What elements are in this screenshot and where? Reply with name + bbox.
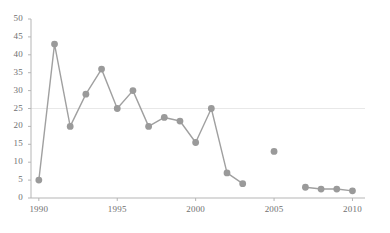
data-point-marker bbox=[98, 66, 105, 73]
data-point-marker bbox=[114, 105, 121, 112]
y-tick-label: 50 bbox=[1, 14, 23, 23]
line-chart: 05101520253035404550 1990199520002005201… bbox=[0, 0, 390, 233]
series-lines bbox=[39, 44, 353, 191]
y-tick-label: 45 bbox=[1, 32, 23, 41]
y-tick-label: 10 bbox=[1, 157, 23, 166]
x-tick-label: 2005 bbox=[254, 205, 294, 214]
data-point-marker bbox=[192, 139, 199, 146]
data-point-marker bbox=[302, 184, 309, 191]
data-point-marker bbox=[224, 170, 231, 177]
y-tick-label: 40 bbox=[1, 50, 23, 59]
x-tick-label: 2000 bbox=[176, 205, 216, 214]
data-point-marker bbox=[333, 186, 340, 193]
series-line-segment-2 bbox=[305, 187, 352, 191]
x-tick-label: 2010 bbox=[332, 205, 372, 214]
series-line-segment-1 bbox=[39, 44, 243, 184]
data-point-marker bbox=[161, 114, 168, 121]
y-tick-label: 5 bbox=[1, 175, 23, 184]
data-point-marker bbox=[35, 177, 42, 184]
data-point-marker bbox=[82, 91, 89, 98]
y-tick-label: 15 bbox=[1, 139, 23, 148]
data-point-marker bbox=[239, 180, 246, 187]
data-point-marker bbox=[318, 186, 325, 193]
data-point-marker bbox=[145, 123, 152, 130]
y-tick-label: 25 bbox=[1, 104, 23, 113]
y-tick-label: 35 bbox=[1, 68, 23, 77]
data-point-marker bbox=[51, 41, 58, 48]
y-tick-label: 0 bbox=[1, 193, 23, 202]
x-tick-label: 1995 bbox=[97, 205, 137, 214]
data-point-marker bbox=[208, 105, 215, 112]
x-tick-label: 1990 bbox=[19, 205, 59, 214]
plot-area bbox=[0, 0, 390, 233]
data-point-marker bbox=[67, 123, 74, 130]
data-point-marker bbox=[349, 187, 356, 194]
y-tick-label: 30 bbox=[1, 86, 23, 95]
data-point-marker bbox=[130, 87, 137, 94]
series-markers bbox=[35, 41, 355, 195]
data-point-marker bbox=[177, 118, 184, 125]
y-tick-label: 20 bbox=[1, 121, 23, 130]
axis-ticks bbox=[28, 19, 352, 201]
data-point-marker bbox=[271, 148, 278, 155]
